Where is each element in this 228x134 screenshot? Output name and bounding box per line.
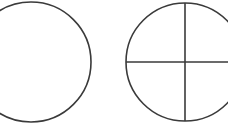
quartered-circle: [126, 3, 228, 121]
diagram-canvas: [0, 0, 228, 134]
plain-circle: [0, 2, 91, 122]
